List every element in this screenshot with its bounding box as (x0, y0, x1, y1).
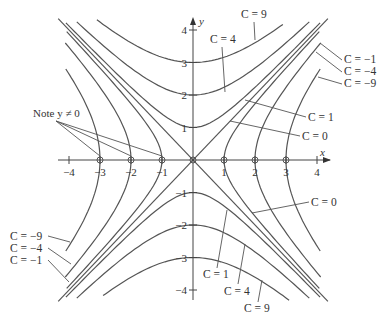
x-tick-label: −1 (156, 166, 168, 178)
y-tick-label: 1 (182, 122, 188, 134)
label-right-cm9: C = −9 (344, 77, 376, 89)
leader-line (48, 236, 70, 242)
y-tick-label: −1 (175, 187, 187, 199)
x-tick-label: −2 (125, 166, 137, 178)
label-top-c4: C = 4 (210, 33, 236, 45)
label-top-c0: C = 0 (302, 130, 328, 142)
x-axis-label: x (319, 146, 325, 158)
leader-line (258, 280, 262, 302)
label-left-cm9: C = −9 (10, 230, 42, 242)
x-tick-label: −3 (94, 166, 106, 178)
y-tick-label: −3 (175, 252, 187, 264)
leader-line (217, 210, 227, 268)
leader-line (56, 121, 162, 156)
label-left-cm4: C = −4 (10, 242, 42, 254)
y-axis-label: y (198, 15, 204, 27)
y-tick-label: 3 (182, 57, 188, 69)
leader-line (48, 248, 71, 264)
label-top-c9: C = 9 (241, 8, 267, 20)
leader-line (252, 202, 309, 213)
level-curves-diagram: x y −4−3−2−112344321−1−2−3−4 C = 9 C = 4… (0, 0, 386, 326)
y-tick-label: −2 (175, 219, 187, 231)
label-bottom-c4: C = 4 (224, 285, 250, 297)
label-right-cm4: C = −4 (344, 65, 376, 77)
label-top-c1: C = 1 (308, 111, 334, 123)
leader-line (254, 22, 255, 40)
leader-line (222, 47, 225, 92)
leader-line (48, 260, 69, 282)
leader-line (238, 244, 245, 284)
y-tick-label: −4 (175, 284, 187, 296)
label-left-cm1: C = −1 (10, 254, 42, 266)
label-bottom-c9: C = 9 (244, 302, 270, 314)
leader-line (318, 77, 342, 84)
x-tick-label: 3 (283, 166, 289, 178)
label-right-cm1: C = −1 (344, 53, 376, 65)
x-tick-label: 1 (221, 166, 227, 178)
x-tick-label: 4 (314, 166, 320, 178)
y-axis-arrow-icon (190, 17, 196, 25)
x-tick-label: −4 (63, 166, 75, 178)
note-y-not-zero: Note y ≠ 0 (33, 107, 80, 119)
curve-c9-upper (97, 20, 283, 63)
y-tick-label: 2 (182, 89, 188, 101)
x-tick-label: 2 (252, 166, 258, 178)
leader-line (230, 121, 300, 136)
y-tick-label: 4 (182, 24, 188, 36)
label-bottom-c1: C = 1 (203, 268, 229, 280)
label-bottom-c0: C = 0 (311, 196, 337, 208)
curve-c9-lower (103, 258, 289, 301)
